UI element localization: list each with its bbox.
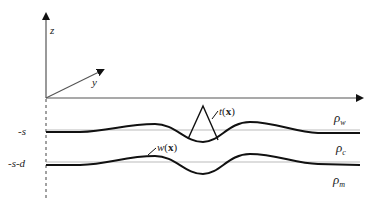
t-leader-line xyxy=(212,111,218,119)
w-leader-line xyxy=(148,148,156,155)
lower-interface-curve xyxy=(46,154,360,174)
y-axis-label: y xyxy=(91,76,97,88)
load-triangle xyxy=(188,106,218,140)
t-label: t(x) xyxy=(219,105,235,118)
level-label-s-d: -s-d xyxy=(8,157,26,169)
density-water: ρw xyxy=(333,110,346,127)
density-crust: ρc xyxy=(335,140,346,157)
flexure-diagram: z y -s -s-d t(x) w(x) ρw ρc ρm xyxy=(0,0,381,204)
w-label: w(x) xyxy=(157,141,178,154)
level-label-s: -s xyxy=(18,125,26,137)
z-axis-label: z xyxy=(49,24,55,36)
density-mantle: ρm xyxy=(332,172,345,189)
upper-interface-curve xyxy=(46,122,360,142)
